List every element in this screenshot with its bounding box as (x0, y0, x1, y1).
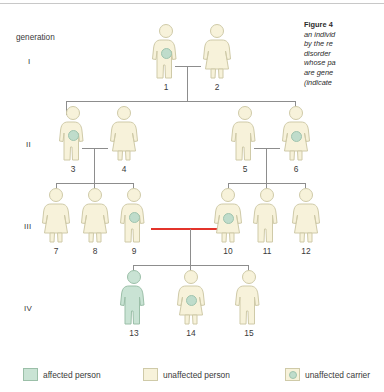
person-13-number: 13 (118, 328, 150, 338)
sibship-line-gen2 (66, 101, 295, 102)
person-11-head (260, 188, 274, 202)
pedigree-chart: generation I II III IV 1 2 (0, 0, 384, 356)
person-8-number: 8 (79, 246, 111, 256)
person-5-body (229, 120, 261, 162)
generation-label-II: II (26, 140, 31, 149)
person-6-number: 6 (280, 164, 312, 174)
person-12-number: 12 (290, 246, 322, 256)
person-13-body (118, 284, 150, 326)
person-14-carrier-dot (186, 295, 197, 306)
person-12[interactable]: 12 (290, 188, 322, 244)
carrier-dot-icon (289, 371, 297, 379)
person-9-body (118, 202, 150, 244)
person-10-head (221, 188, 235, 202)
person-6-head (289, 106, 303, 120)
person-11-number: 11 (251, 246, 283, 256)
person-13[interactable]: 13 (118, 270, 150, 326)
person-5-head (238, 106, 252, 120)
legend-label-unaffected: unaffected person (163, 370, 230, 380)
person-1[interactable]: 1 (150, 24, 182, 80)
person-2-head (210, 24, 224, 38)
generation-axis-label: generation (16, 33, 55, 42)
unaffected-swatch-icon (143, 368, 158, 381)
person-2[interactable]: 2 (201, 24, 233, 80)
person-3-number: 3 (57, 164, 89, 174)
person-11-body (251, 202, 283, 244)
person-12-body (290, 202, 322, 244)
legend-item-affected: affected person (23, 368, 101, 381)
person-3[interactable]: 3 (57, 106, 89, 162)
person-15-number: 15 (233, 328, 265, 338)
person-6[interactable]: 6 (280, 106, 312, 162)
affected-swatch-icon (23, 368, 38, 381)
person-14-head (184, 270, 198, 284)
person-2-number: 2 (201, 82, 233, 92)
person-5[interactable]: 5 (229, 106, 261, 162)
person-15[interactable]: 15 (233, 270, 265, 326)
person-4-body (108, 120, 140, 162)
person-9-number: 9 (118, 246, 150, 256)
person-2-body (201, 38, 233, 80)
person-5-number: 5 (229, 164, 261, 174)
person-1-carrier-dot (161, 48, 172, 59)
generation-label-IV: IV (24, 304, 32, 313)
carrier-swatch-icon (285, 368, 300, 381)
person-12-head (299, 188, 313, 202)
person-8[interactable]: 8 (79, 188, 111, 244)
person-10-number: 10 (212, 246, 244, 256)
descent-line-5-6 (266, 148, 267, 183)
generation-label-I: I (28, 57, 31, 66)
person-1-number: 1 (150, 82, 182, 92)
person-13-head (127, 270, 141, 284)
person-1-body (150, 38, 182, 80)
person-1-head (159, 24, 173, 38)
person-9-head (127, 188, 141, 202)
person-7-body (40, 202, 72, 244)
person-10-carrier-dot (223, 213, 234, 224)
legend-item-carrier: unaffected carrier (285, 368, 370, 381)
person-14-number: 14 (175, 328, 207, 338)
person-3-carrier-dot (68, 130, 79, 141)
person-10[interactable]: 10 (212, 188, 244, 244)
person-15-body (233, 284, 265, 326)
person-7-number: 7 (40, 246, 72, 256)
person-6-carrier-dot (291, 131, 302, 142)
person-9[interactable]: 9 (118, 188, 150, 244)
legend: affected person unaffected person unaffe… (0, 362, 384, 392)
person-4-head (117, 106, 131, 120)
person-3-body (57, 120, 89, 162)
person-15-head (242, 270, 256, 284)
descent-line-1-2 (187, 66, 188, 101)
person-14[interactable]: 14 (175, 270, 207, 326)
person-3-head (66, 106, 80, 120)
legend-item-unaffected: unaffected person (143, 368, 230, 381)
generation-label-III: III (24, 222, 32, 231)
descent-line-3-4 (94, 148, 95, 183)
person-11[interactable]: 11 (251, 188, 283, 244)
legend-label-affected: affected person (43, 370, 101, 380)
descent-line-9-10 (190, 229, 191, 265)
person-8-body (79, 202, 111, 244)
person-4-number: 4 (108, 164, 140, 174)
person-7-head (49, 188, 63, 202)
person-7[interactable]: 7 (40, 188, 72, 244)
legend-label-carrier: unaffected carrier (305, 370, 370, 380)
person-4[interactable]: 4 (108, 106, 140, 162)
person-9-carrier-dot (129, 212, 140, 223)
person-8-head (88, 188, 102, 202)
